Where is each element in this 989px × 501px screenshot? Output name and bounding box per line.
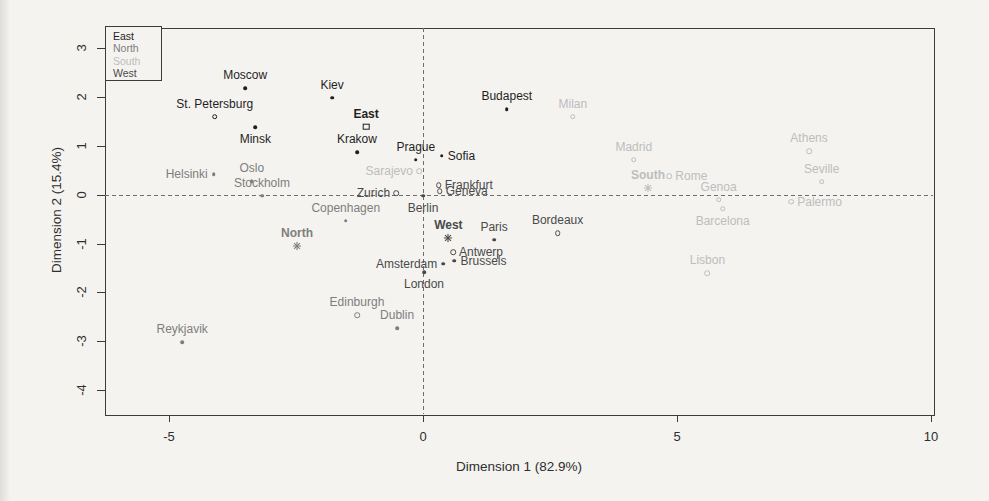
city-label-dublin: Dublin — [380, 310, 414, 323]
city-label-oslo: Oslo — [239, 163, 264, 176]
legend-item-south: South — [113, 55, 157, 67]
data-point-madrid — [631, 157, 637, 163]
city-label-geneva: Geneva — [446, 185, 488, 198]
data-point-palermo — [788, 199, 794, 205]
data-point-dublin — [395, 326, 399, 330]
city-label-barcelona: Barcelona — [696, 215, 750, 228]
data-point-copenhagen — [344, 219, 348, 223]
city-label-lisbon: Lisbon — [690, 254, 725, 267]
city-label-seville: Seville — [804, 163, 839, 176]
data-point-sofia — [440, 154, 444, 158]
city-label-athens: Athens — [790, 132, 827, 145]
data-point-rome — [667, 174, 673, 180]
city-label-amsterdam: Amsterdam — [376, 257, 437, 270]
data-point-frankfurt — [436, 182, 442, 188]
city-label-london: London — [404, 278, 444, 291]
city-label-st-petersburg: St. Petersburg — [176, 98, 253, 111]
data-point-bordeaux — [555, 230, 561, 236]
data-point-stockholm — [260, 194, 264, 198]
data-point-london — [422, 270, 426, 274]
city-label-minsk: Minsk — [240, 133, 271, 146]
data-point-paris — [492, 238, 496, 242]
data-point-west — [444, 233, 453, 242]
city-label-kiev: Kiev — [320, 79, 343, 92]
city-label-zurich: Zurich — [357, 187, 390, 200]
city-label-sarajevo: Sarajevo — [366, 165, 413, 178]
city-label-milan: Milan — [559, 98, 588, 111]
city-label-reykjavik: Reykjavik — [157, 324, 208, 337]
data-point-east — [363, 123, 370, 130]
y-axis-title: Dimension 2 (15.4%) — [49, 147, 64, 273]
city-label-madrid: Madrid — [615, 141, 652, 154]
city-label-stockholm: Stockholm — [234, 177, 290, 190]
data-point-berlin — [421, 194, 425, 198]
data-point-budapest — [505, 107, 509, 111]
data-point-genoa — [716, 197, 722, 203]
city-label-paris: Paris — [480, 221, 507, 234]
legend-item-north: North — [113, 42, 157, 54]
city-label-prague: Prague — [397, 141, 436, 154]
data-point-seville — [819, 179, 825, 185]
data-point-helsinki — [212, 173, 216, 177]
data-point-antwerp — [450, 249, 456, 255]
city-label-copenhagen: Copenhagen — [311, 202, 380, 215]
city-label-moscow: Moscow — [223, 69, 267, 82]
city-label-brussels: Brussels — [460, 254, 506, 267]
data-point-milan — [570, 114, 576, 120]
city-label-east: East — [353, 108, 378, 121]
data-point-north — [293, 241, 302, 250]
city-label-sofia: Sofia — [448, 150, 475, 163]
data-point-moscow — [243, 86, 247, 90]
data-point-minsk — [254, 125, 258, 129]
data-point-edinburgh — [354, 312, 360, 318]
data-point-sarajevo — [416, 169, 422, 175]
city-label-berlin: Berlin — [408, 202, 439, 215]
x-axis-title: Dimension 1 (82.9%) — [456, 459, 582, 474]
city-label-genoa: Genoa — [701, 181, 737, 194]
legend-item-east: East — [113, 30, 157, 42]
city-label-budapest: Budapest — [481, 90, 532, 103]
city-label-edinburgh: Edinburgh — [330, 296, 385, 309]
data-point-brussels — [453, 259, 457, 263]
legend-box: EastNorthSouthWest — [105, 26, 162, 81]
city-label-north: North — [281, 227, 313, 240]
data-point-kiev — [330, 96, 334, 100]
data-point-geneva — [437, 188, 443, 194]
city-label-bordeaux: Bordeaux — [532, 214, 583, 227]
data-point-st-petersburg — [212, 114, 218, 120]
city-label-krakow: Krakow — [337, 133, 377, 146]
city-label-helsinki: Helsinki — [166, 168, 208, 181]
data-point-south — [644, 184, 653, 193]
city-label-palermo: Palermo — [797, 195, 842, 208]
data-point-barcelona — [720, 206, 726, 212]
data-point-athens — [806, 148, 812, 154]
data-point-prague — [414, 158, 418, 162]
data-point-reykjavik — [180, 340, 184, 344]
legend-item-west: West — [113, 67, 157, 79]
city-label-west: West — [434, 219, 462, 232]
data-point-krakow — [355, 150, 359, 154]
data-point-amsterdam — [442, 262, 446, 266]
data-point-lisbon — [705, 270, 711, 276]
city-label-south: South — [631, 169, 665, 182]
data-point-zurich — [393, 190, 399, 196]
figure-canvas: -505103210-1-2-3-4 SarajevoMilanMadridRo… — [0, 0, 989, 501]
